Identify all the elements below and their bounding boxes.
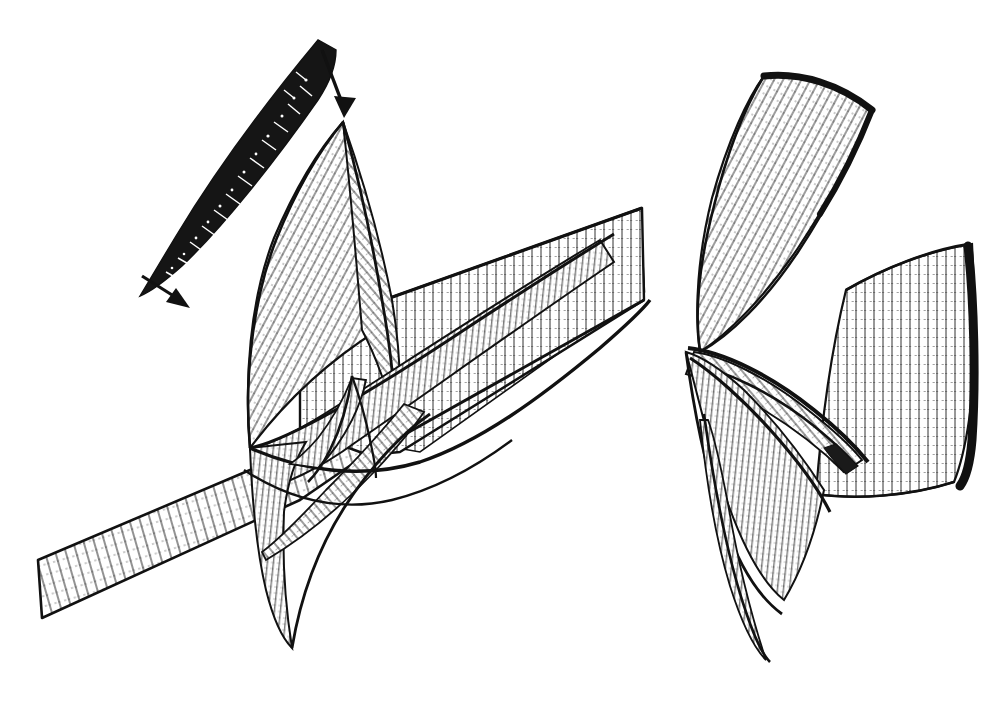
figure-caption xyxy=(0,713,1005,722)
surface-drawing-canvas xyxy=(0,0,1005,722)
figure-illustration xyxy=(0,0,1005,722)
